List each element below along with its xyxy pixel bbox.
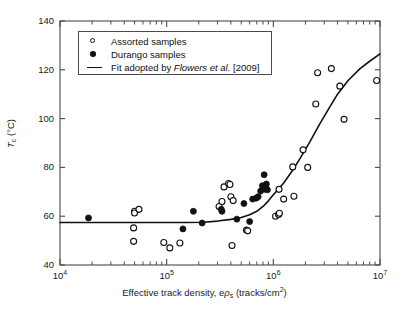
data-point-assorted (219, 199, 225, 205)
data-point-assorted (300, 147, 306, 153)
data-point-assorted (281, 196, 287, 202)
data-point-assorted (291, 193, 297, 199)
data-point-assorted (131, 238, 137, 244)
data-point-durango (255, 194, 261, 200)
xlabel-post: ) (284, 287, 287, 298)
xlabel-mid: (tracks/cm (233, 287, 279, 298)
xlabel-rho: ρ (224, 287, 229, 298)
data-point-assorted (328, 66, 334, 72)
xlabel-sub: s (230, 292, 234, 299)
data-point-assorted (337, 83, 343, 89)
y-tick-label: 100 (28, 113, 54, 124)
open-circle-icon (87, 35, 109, 47)
legend-fit-italic: Flowers et al. (174, 62, 231, 73)
data-point-durango (247, 219, 253, 225)
data-point-assorted (245, 228, 251, 234)
ylabel-unit: (°C) (5, 119, 16, 139)
x-tick-label: 107 (360, 270, 400, 281)
data-point-durango (263, 181, 269, 187)
data-point-durango (234, 216, 240, 222)
data-point-durango (190, 208, 196, 214)
y-tick-label: 40 (28, 259, 54, 270)
data-point-assorted (131, 225, 137, 231)
legend-item-fit: Fit adopted by Flowers et al. [2009] (87, 60, 259, 74)
data-point-assorted (136, 206, 142, 212)
x-tick-label: 105 (147, 270, 187, 281)
data-point-assorted (167, 245, 173, 251)
data-point-assorted (276, 210, 282, 216)
data-point-assorted (227, 181, 233, 187)
data-point-assorted (313, 101, 319, 107)
line-swatch-icon (87, 61, 109, 73)
y-axis-label: Tc (°C) (5, 104, 16, 164)
legend-fit-pre: Fit adopted by (111, 62, 174, 73)
data-point-assorted (177, 240, 183, 246)
y-tick-label: 80 (28, 161, 54, 172)
chart-legend: Assorted samples Durango samples Fit ado… (78, 31, 272, 75)
x-axis-label: Effective track density, eρs (tracks/cm2… (0, 287, 409, 298)
data-point-durango (264, 187, 270, 193)
ylabel-T: T (5, 142, 16, 148)
x-tick-label: 104 (40, 270, 80, 281)
data-point-assorted (230, 198, 236, 204)
legend-item-durango: Durango samples (87, 47, 185, 61)
filled-circle-icon (87, 48, 109, 60)
x-tick-label: 106 (253, 270, 293, 281)
legend-item-assorted: Assorted samples (87, 34, 187, 48)
xlabel-sup: 2 (280, 286, 284, 293)
data-point-assorted (341, 116, 347, 122)
data-point-assorted (374, 78, 380, 84)
data-point-durango (241, 201, 247, 207)
data-point-durango (219, 208, 225, 214)
data-point-assorted (276, 186, 282, 192)
data-point-durango (261, 172, 267, 178)
data-point-durango (199, 220, 205, 226)
y-tick-label: 140 (28, 15, 54, 26)
data-point-assorted (305, 164, 311, 170)
data-point-assorted (315, 70, 321, 76)
legend-label-durango: Durango samples (109, 49, 185, 60)
legend-label-fit: Fit adopted by Flowers et al. [2009] (109, 62, 259, 73)
ylabel-sub: c (10, 139, 17, 143)
y-tick-label: 120 (28, 64, 54, 75)
data-point-assorted (229, 242, 235, 248)
data-point-assorted (161, 240, 167, 246)
legend-fit-post: [2009] (230, 62, 259, 73)
data-point-durango (86, 215, 92, 221)
xlabel-pre: Effective track density, e (122, 287, 224, 298)
data-point-durango (180, 226, 186, 232)
legend-label-assorted: Assorted samples (109, 36, 187, 47)
data-point-assorted (290, 164, 296, 170)
y-tick-label: 60 (28, 210, 54, 221)
